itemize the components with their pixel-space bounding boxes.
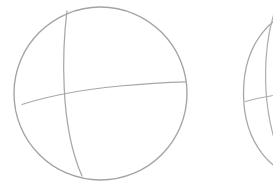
- sphere-1-outline-circle: [14, 7, 187, 180]
- sphere-2-outline-circle: [244, 7, 274, 180]
- sphere-1-group: [14, 7, 187, 180]
- sphere-1-equator-curve: [22, 82, 186, 105]
- sphere-2-equator-curve: [246, 93, 274, 101]
- sphere-sketch-illustration: [0, 0, 273, 181]
- sphere-2-group: [244, 7, 274, 180]
- sphere-2-meridian-curve: [265, 10, 273, 178]
- sketch-canvas: [0, 0, 273, 181]
